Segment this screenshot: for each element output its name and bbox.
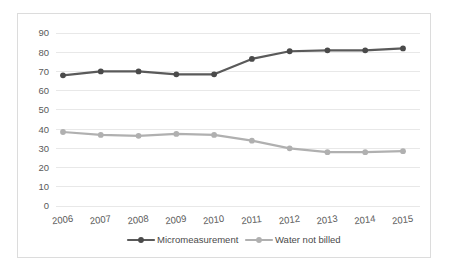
y-tick-label: 40 [38,124,49,135]
data-point-marker [325,47,331,53]
x-tick-label: 2015 [391,213,413,226]
legend-item-label[interactable]: Micromeasurement [157,234,239,245]
legend-swatch-marker [138,237,144,243]
x-axis-tick-labels: 2006200720082009201020112012201320142015 [51,213,413,226]
y-tick-label: 10 [38,181,49,192]
data-point-marker [136,69,142,75]
data-point-marker [173,71,179,77]
y-tick-label: 60 [38,85,49,96]
data-point-marker [400,148,406,154]
data-point-marker [98,69,104,75]
x-tick-label: 2008 [127,213,149,226]
y-tick-label: 70 [38,66,49,77]
data-point-marker [362,47,368,53]
data-point-marker [249,138,255,144]
line-chart: 0102030405060708090 20062007200820092010… [18,14,430,257]
y-tick-label: 30 [38,143,49,154]
y-axis-tick-labels: 0102030405060708090 [38,27,49,211]
y-tick-label: 0 [44,200,49,211]
data-point-marker [173,131,179,137]
data-point-marker [287,48,293,54]
data-point-marker [325,149,331,155]
y-tick-label: 90 [38,27,49,38]
series-line [63,132,403,152]
data-point-marker [60,72,66,78]
data-series [60,45,406,155]
x-tick-label: 2006 [51,213,73,226]
data-point-marker [136,133,142,139]
y-tick-label: 80 [38,47,49,58]
data-point-marker [287,145,293,151]
y-tick-label: 50 [38,104,49,115]
gridlines [56,33,420,206]
data-point-marker [98,132,104,138]
y-tick-label: 20 [38,162,49,173]
data-point-marker [211,71,217,77]
data-point-marker [249,56,255,62]
data-point-marker [400,45,406,51]
chart-container: 0102030405060708090 20062007200820092010… [17,13,431,258]
data-point-marker [211,132,217,138]
x-tick-label: 2012 [278,213,300,226]
x-tick-label: 2011 [241,213,263,226]
legend-item-label[interactable]: Water not billed [275,234,341,245]
chart-legend: MicromeasurementWater not billed [128,234,341,245]
x-tick-label: 2013 [316,213,338,226]
x-tick-label: 2009 [165,213,187,226]
legend-swatch-marker [256,237,262,243]
data-point-marker [362,149,368,155]
x-tick-label: 2014 [354,213,376,226]
data-point-marker [60,129,66,135]
x-tick-label: 2010 [203,213,225,226]
x-tick-label: 2007 [89,213,111,226]
